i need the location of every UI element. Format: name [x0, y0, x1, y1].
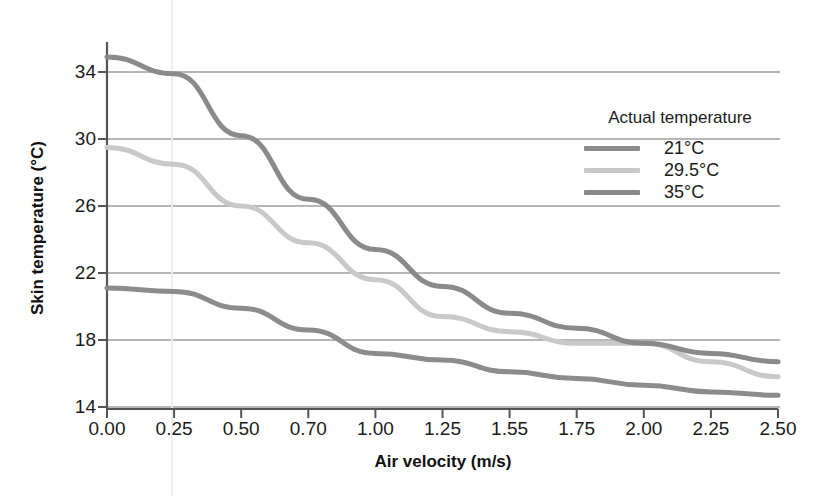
y-tick-label: 18: [54, 329, 96, 351]
legend-items: 21°C29.5°C35°C: [556, 132, 804, 207]
legend-title: Actual temperature: [556, 108, 804, 132]
legend-item: 35°C: [556, 181, 804, 203]
y-tick-label: 22: [54, 262, 96, 284]
legend-label: 29.5°C: [664, 160, 719, 181]
legend-swatch: [584, 190, 640, 195]
legend-swatch: [584, 168, 640, 173]
x-axis-title: Air velocity (m/s): [107, 452, 779, 472]
y-tick-label: 14: [54, 396, 96, 418]
legend-label: 35°C: [664, 182, 704, 203]
x-tick-label: 2.50: [738, 418, 818, 440]
legend-label: 21°C: [664, 138, 704, 159]
legend-item: 29.5°C: [556, 159, 804, 181]
y-axis-title: Skin temperature (°C): [28, 98, 48, 358]
chart-container: 343026221814 0.000.250.500.701.001.251.5…: [0, 0, 825, 496]
legend-swatch: [584, 146, 640, 151]
y-tick-label: 34: [54, 61, 96, 83]
legend: Actual temperature 21°C29.5°C35°C: [556, 108, 804, 207]
legend-item: 21°C: [556, 137, 804, 159]
y-tick-label: 30: [54, 128, 96, 150]
series-line-21C: [107, 288, 778, 395]
y-tick-label: 26: [54, 195, 96, 217]
